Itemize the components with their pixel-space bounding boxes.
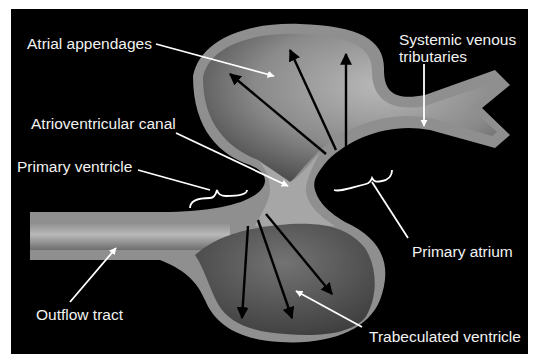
label-atrial-appendages: Atrial appendages <box>27 35 152 52</box>
label-outflow-tract: Outflow tract <box>36 306 124 323</box>
label-systemic-venous-line1: Systemic venous <box>399 31 516 48</box>
label-systemic-venous-line2: tributaries <box>399 48 467 65</box>
outflow-lumen <box>30 222 230 250</box>
diagram-canvas: Atrial appendages Systemic venous tribut… <box>0 0 548 361</box>
label-atrioventricular-canal: Atrioventricular canal <box>31 115 176 132</box>
label-primary-atrium: Primary atrium <box>412 243 513 260</box>
label-primary-ventricle: Primary ventricle <box>17 158 132 175</box>
label-trabeculated-ventricle: Trabeculated ventricle <box>369 328 521 345</box>
